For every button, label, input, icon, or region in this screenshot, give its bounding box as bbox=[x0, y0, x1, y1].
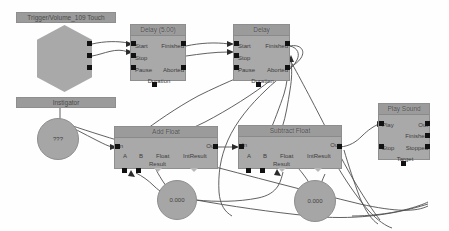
delay1-body: Start Stop Pause Finished Aborted Durati… bbox=[131, 36, 185, 81]
subtract-float-header: Subtract Float bbox=[239, 126, 341, 137]
delay2-body: Start Stop Pause Finished Aborted Durati… bbox=[234, 36, 289, 81]
subtract-float-port-intresult[interactable] bbox=[314, 168, 322, 172]
constant-bubble-a[interactable]: 0.000 bbox=[157, 180, 197, 220]
delay1-port-pause[interactable] bbox=[131, 65, 136, 70]
subtract-float-port-out[interactable] bbox=[337, 144, 342, 149]
delay2-port-stop[interactable] bbox=[234, 53, 239, 58]
delay1-header: Delay (5.00) bbox=[131, 25, 185, 36]
delay1-port-start[interactable] bbox=[131, 41, 136, 46]
subtract-float-port-a[interactable] bbox=[246, 168, 251, 173]
play-sound-port-stopped[interactable] bbox=[425, 144, 430, 149]
add-float-body: In Out A B Float IntResult Result bbox=[115, 138, 217, 169]
instigator-value-label: ??? bbox=[53, 136, 63, 142]
add-float-port-out[interactable] bbox=[213, 144, 218, 149]
delay2-label-stop: Stop bbox=[238, 55, 250, 62]
wire-subfloat-down-right bbox=[336, 164, 392, 228]
add-float-node[interactable]: Add Float In Out A B Float IntResult Res… bbox=[114, 126, 218, 169]
wire-untouched-to-stop1 bbox=[92, 50, 128, 56]
play-sound-port-play[interactable] bbox=[379, 121, 384, 126]
add-float-header: Add Float bbox=[115, 127, 217, 138]
trigger-port-touched[interactable] bbox=[87, 41, 92, 46]
delay1-port-duration[interactable] bbox=[152, 82, 157, 87]
add-float-port-b[interactable] bbox=[136, 168, 141, 173]
subtract-float-label-float: Float bbox=[280, 153, 293, 160]
subtract-float-label-b: B bbox=[263, 153, 267, 160]
subtract-float-port-in[interactable] bbox=[239, 144, 244, 149]
instigator-label: Instigator bbox=[53, 99, 80, 106]
add-float-port-in[interactable] bbox=[115, 144, 120, 149]
delay2-label-duration: Duration bbox=[234, 78, 291, 85]
constant-a-value: 0.000 bbox=[169, 197, 184, 203]
delay1-port-finished[interactable] bbox=[181, 41, 186, 46]
subtract-float-node[interactable]: Subtract Float In Out A B Float IntResul… bbox=[238, 125, 342, 169]
wire-playsound-down-left bbox=[344, 150, 378, 224]
add-float-port-float[interactable] bbox=[154, 168, 162, 172]
instigator-value-bubble[interactable]: ??? bbox=[37, 118, 79, 160]
wire-finished1-to-start2 bbox=[186, 43, 229, 46]
subtract-float-label-out: Out bbox=[299, 142, 340, 149]
play-sound-port-stop[interactable] bbox=[379, 144, 384, 149]
delay1-label-aborted: Aborted bbox=[141, 67, 184, 74]
trigger-port-untouched[interactable] bbox=[87, 53, 92, 58]
delay1-label-duration: Duration bbox=[131, 78, 187, 85]
add-float-label-b: B bbox=[139, 153, 143, 160]
delay2-label-finished: Finished bbox=[244, 43, 288, 50]
play-sound-label-finished: Finished bbox=[387, 133, 428, 140]
subtract-float-label-a: A bbox=[247, 153, 251, 160]
delay2-port-start[interactable] bbox=[234, 41, 239, 46]
subtract-float-port-b[interactable] bbox=[260, 168, 265, 173]
wire-const-a-to-subfloat-b bbox=[196, 172, 283, 201]
delay2-port-aborted[interactable] bbox=[285, 65, 290, 70]
subtract-float-label-result: Result bbox=[273, 161, 290, 168]
trigger-title-label: Trigger/Volume_109 Touch bbox=[27, 14, 104, 21]
delay1-port-aborted[interactable] bbox=[181, 65, 186, 70]
add-float-label-out: Out bbox=[175, 143, 216, 150]
subtract-float-body: In Out A B Float IntResult Result bbox=[239, 137, 341, 169]
add-float-label-a: A bbox=[123, 153, 127, 160]
play-sound-port-out[interactable] bbox=[425, 121, 430, 126]
trigger-title-bar[interactable]: Trigger/Volume_109 Touch bbox=[16, 12, 116, 23]
trigger-volume-node[interactable] bbox=[37, 25, 92, 92]
add-float-port-intresult[interactable] bbox=[190, 168, 198, 172]
delay2-port-duration[interactable] bbox=[256, 82, 261, 87]
play-sound-body: Play Stop Out Finished Stopped Target bbox=[379, 115, 429, 160]
arrow-addfloat-b-in bbox=[128, 170, 135, 177]
subtract-float-port-float[interactable] bbox=[278, 168, 286, 172]
delay-node-1[interactable]: Delay (5.00) Start Stop Pause Finished A… bbox=[130, 24, 186, 81]
add-float-label-float: Float bbox=[156, 153, 169, 160]
subtract-float-label-intresult: IntResult bbox=[307, 153, 331, 160]
play-sound-port-target[interactable] bbox=[401, 161, 406, 166]
wire-subfloat-out-to-playsound bbox=[340, 124, 379, 147]
delay2-port-finished[interactable] bbox=[285, 41, 290, 46]
play-sound-header: Play Sound bbox=[379, 104, 429, 115]
add-float-label-result: Result bbox=[149, 161, 166, 168]
instigator-bar[interactable]: Instigator bbox=[16, 97, 116, 108]
add-float-label-intresult: IntResult bbox=[183, 153, 207, 160]
play-sound-port-finished[interactable] bbox=[425, 133, 430, 138]
play-sound-label-out: Out bbox=[387, 122, 428, 129]
trigger-port-empty[interactable] bbox=[87, 65, 92, 70]
constant-b-value: 0.000 bbox=[307, 198, 322, 204]
play-sound-label-stopped: Stopped bbox=[387, 145, 428, 152]
delay2-header: Delay bbox=[234, 25, 289, 36]
node-graph-canvas[interactable]: Trigger/Volume_109 Touch Touched UnTouch… bbox=[0, 0, 449, 231]
delay1-label-finished: Finished bbox=[141, 43, 184, 50]
delay1-port-stop[interactable] bbox=[131, 53, 136, 58]
constant-bubble-b[interactable]: 0.000 bbox=[294, 180, 336, 222]
play-sound-node[interactable]: Play Sound Play Stop Out Finished Stoppe… bbox=[378, 103, 430, 160]
add-float-port-a[interactable] bbox=[122, 168, 127, 173]
wire-touched-to-start1 bbox=[92, 42, 128, 44]
wire-bottom-right-converge bbox=[352, 202, 428, 216]
delay-node-2[interactable]: Delay Start Stop Pause Finished Aborted … bbox=[233, 24, 290, 81]
delay2-label-aborted: Aborted bbox=[244, 67, 288, 74]
delay2-port-pause[interactable] bbox=[234, 65, 239, 70]
wire-finished1b-to-stop2 bbox=[186, 52, 229, 56]
delay1-label-stop: Stop bbox=[135, 55, 147, 62]
